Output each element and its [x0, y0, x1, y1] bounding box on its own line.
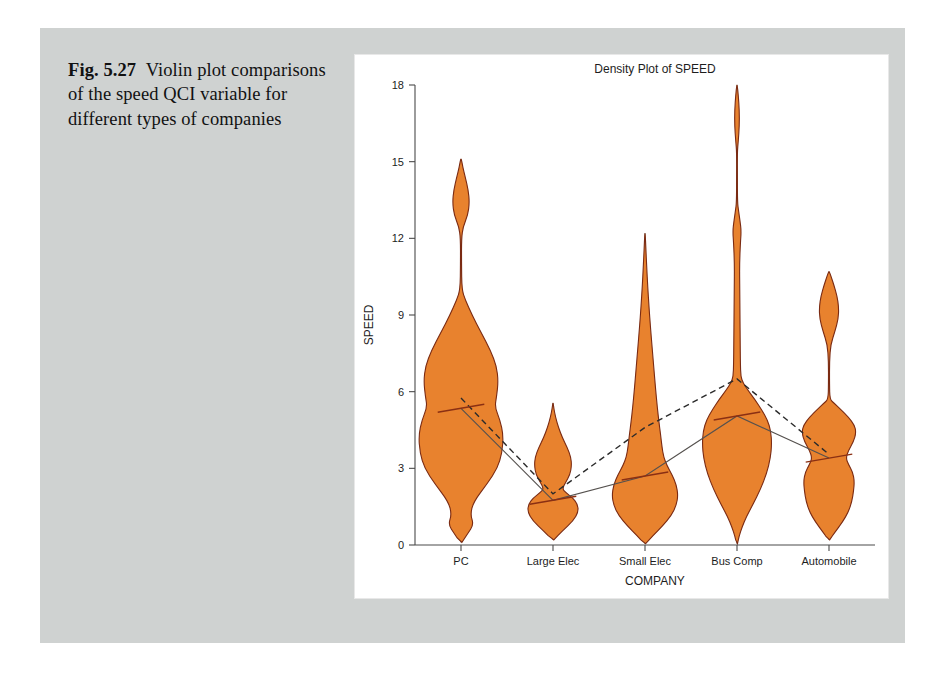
x-tick-label-bus-comp: Bus Comp [711, 555, 762, 567]
book-page: Fig. 5.27Violin plot comparisons of the … [40, 28, 905, 643]
x-tick-label-pc: PC [453, 555, 468, 567]
violin-automobile [802, 272, 855, 540]
violin-small-elec [612, 233, 677, 543]
y-tick-label: 15 [392, 156, 404, 168]
y-tick-label: 18 [392, 79, 404, 91]
violin-large-elec [528, 403, 578, 540]
y-axis-title: SPEED [362, 304, 376, 345]
figure-caption: Fig. 5.27Violin plot comparisons of the … [68, 58, 338, 131]
y-tick-label: 6 [398, 386, 404, 398]
y-axis: 0369121518 [392, 79, 415, 551]
y-tick-label: 12 [392, 232, 404, 244]
y-tick-label: 0 [398, 539, 404, 551]
x-tick-label-automobile: Automobile [801, 555, 856, 567]
x-axis: PCLarge ElecSmall ElecBus CompAutomobile [415, 545, 875, 567]
chart-panel: Density Plot of SPEED 0369121518 SPEED P… [355, 55, 888, 598]
violin-shapes [419, 85, 855, 544]
y-tick-label: 3 [398, 462, 404, 474]
x-tick-label-small-elec: Small Elec [619, 555, 671, 567]
violin-pc [419, 159, 503, 542]
x-tick-label-large-elec: Large Elec [527, 555, 580, 567]
figure-number: Fig. 5.27 [68, 60, 146, 80]
y-tick-label: 9 [398, 309, 404, 321]
x-axis-title: COMPANY [625, 574, 685, 588]
violin-bus-comp [703, 85, 772, 544]
violin-plot-svg: Density Plot of SPEED 0369121518 SPEED P… [355, 55, 888, 598]
chart-title: Density Plot of SPEED [594, 62, 716, 76]
